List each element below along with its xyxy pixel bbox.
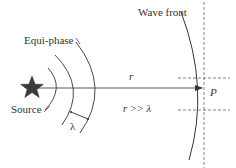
source-leader [44,106,50,112]
source-label: Source [11,103,42,115]
far-field-condition-label: r >> λ [123,103,152,114]
equi-phase-arc-2 [55,55,73,125]
equi-phase-label: Equi-phase [24,34,74,46]
star-icon [21,76,44,98]
wave-front-arc [181,12,198,160]
equi-phase-arc-1 [45,68,56,110]
observation-point-label: P [209,86,217,98]
wave-front-label: Wave front [138,6,187,18]
distance-label: r [129,70,134,82]
wavelength-dimension-line [71,112,88,119]
wavelength-tick-right [87,118,89,120]
wavelength-tick-left [70,111,72,113]
equi-phase-arc-3 [76,42,95,133]
wave-diagram: Equi-phase Wave front Source r r >> λ λ … [0,0,236,168]
wavelength-label: λ [70,120,76,132]
